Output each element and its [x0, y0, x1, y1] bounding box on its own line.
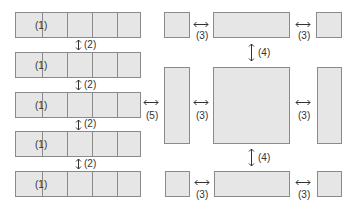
center: [213, 67, 290, 144]
horizontal-arrow-icon: [194, 179, 210, 186]
gap-label: (2): [84, 40, 96, 50]
gap-label: (2): [84, 80, 96, 90]
edge-right: [317, 67, 342, 144]
strip-label: (1): [35, 140, 47, 150]
vertical-arrow-icon: [248, 148, 255, 167]
edge-left: [164, 67, 190, 144]
gap-label: (4): [258, 48, 270, 58]
strip-label: (1): [35, 21, 47, 31]
horizontal-arrow-icon: [143, 99, 159, 106]
edge-top: [213, 12, 290, 38]
gap-label: (3): [196, 31, 208, 41]
gap-label: (3): [196, 111, 208, 121]
strip-label: (1): [35, 61, 47, 71]
strip-4: (1): [15, 131, 141, 157]
corner-bottom-left: [165, 171, 190, 197]
vertical-arrow-icon: [75, 119, 82, 131]
panel-gap-label: (5): [146, 111, 158, 121]
horizontal-arrow-icon: [295, 21, 311, 28]
gap-label: (3): [196, 190, 208, 200]
strip-5: (1): [15, 171, 141, 197]
horizontal-arrow-icon: [193, 21, 209, 28]
strip-2: (1): [15, 52, 141, 78]
edge-bottom: [214, 171, 290, 197]
gap-label: (2): [84, 159, 96, 169]
horizontal-arrow-icon: [295, 99, 311, 106]
strip-label: (1): [35, 101, 47, 111]
strip-label: (1): [35, 180, 47, 190]
gap-label: (2): [84, 119, 96, 129]
strip-1: (1): [15, 12, 141, 38]
gap-label: (3): [298, 190, 310, 200]
vertical-arrow-icon: [75, 79, 82, 91]
vertical-arrow-icon: [75, 39, 82, 51]
corner-bottom-right: [317, 171, 342, 197]
corner-top-left: [164, 12, 190, 38]
gap-label: (3): [298, 31, 310, 41]
vertical-arrow-icon: [248, 43, 255, 62]
vertical-arrow-icon: [75, 158, 82, 170]
horizontal-arrow-icon: [193, 99, 209, 106]
gap-label: (4): [258, 153, 270, 163]
spacing-diagram: (1) (1) (1) (1) (1) (2) (2) (2) (2) (5) …: [0, 0, 347, 203]
corner-top-right: [316, 12, 342, 38]
gap-label: (3): [298, 111, 310, 121]
strip-3: (1): [15, 92, 141, 118]
horizontal-arrow-icon: [295, 179, 311, 186]
